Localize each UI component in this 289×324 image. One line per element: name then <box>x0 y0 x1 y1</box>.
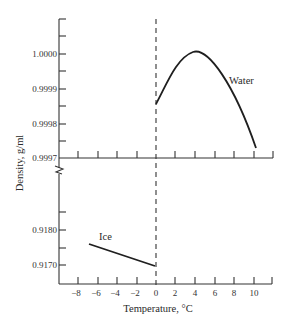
x-tick-label: 6 <box>213 288 218 298</box>
y-tick-labels-upper: 1.0000 0.9999 0.9998 0.9997 <box>32 49 57 163</box>
x-tick-label: 0 <box>154 288 159 298</box>
y-tick-label: 0.9998 <box>32 119 57 129</box>
x-axis-title: Temperature, °C <box>123 303 192 314</box>
axis-break-icon <box>55 166 63 174</box>
ice-density-line <box>89 244 155 266</box>
y-tick-labels-lower: 0.9180 0.9170 <box>32 225 57 270</box>
x-tick-label: −8 <box>71 288 81 298</box>
x-tick-label: 10 <box>250 288 260 298</box>
water-density-curve <box>156 52 256 148</box>
x-tick-label: 4 <box>193 288 198 298</box>
water-label: Water <box>229 75 254 86</box>
y-tick-label: 0.9997 <box>32 153 57 163</box>
x-axis-upper <box>59 151 273 158</box>
x-tick-label: −6 <box>91 288 101 298</box>
y-tick-label: 0.9999 <box>32 84 57 94</box>
y-tick-label: 1.0000 <box>32 49 57 59</box>
y-axis-lower <box>59 174 66 284</box>
density-chart: 1.0000 0.9999 0.9998 0.9997 0.9180 0.917… <box>0 0 289 324</box>
x-tick-label: 8 <box>232 288 237 298</box>
x-axis-lower <box>59 277 272 284</box>
y-axis-title: Density, g/ml <box>14 135 25 192</box>
x-tick-labels: −8 −6 −4 −2 0 2 4 6 8 10 <box>71 288 259 298</box>
x-tick-label: −2 <box>130 288 140 298</box>
y-tick-label: 0.9180 <box>32 225 57 235</box>
x-tick-label: −4 <box>110 288 120 298</box>
ice-label: Ice <box>99 231 112 242</box>
y-axis-upper <box>59 19 66 168</box>
y-tick-label: 0.9170 <box>32 260 57 270</box>
x-tick-label: 2 <box>173 288 178 298</box>
